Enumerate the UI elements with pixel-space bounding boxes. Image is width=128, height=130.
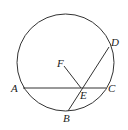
label-f: F — [56, 57, 64, 69]
geometry-diagram: A C D B E F — [0, 0, 128, 130]
label-d: D — [110, 36, 119, 48]
label-e: E — [79, 89, 87, 101]
label-c: C — [108, 82, 116, 94]
label-b: B — [63, 112, 70, 124]
label-a: A — [10, 82, 18, 94]
segment-fe — [64, 66, 81, 88]
